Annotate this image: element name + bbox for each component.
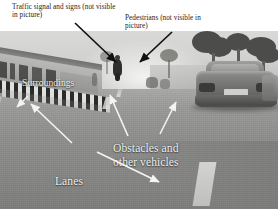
road-scene-photograph: Surroundings Obstacles and other vehicle… (0, 31, 278, 209)
caption-traffic-signal: Traffic signal and signs (not visible in… (12, 3, 117, 20)
motorcycle-wheel (115, 73, 120, 81)
overlay-label-obstacles: Obstacles and other vehicles (113, 141, 179, 169)
second-vehicle (262, 75, 278, 101)
caption-pedestrians: Pedestrians (not visible in picture) (125, 14, 220, 31)
car-taillight-left (199, 83, 215, 92)
overlay-label-surroundings: Surroundings (22, 78, 74, 90)
far-pedestrian (92, 73, 97, 86)
far-vehicle-2 (160, 79, 170, 89)
figure-root: Traffic signal and signs (not visible in… (0, 0, 278, 217)
overlay-label-lanes: Lanes (55, 176, 83, 188)
footpath-edge (0, 93, 150, 139)
far-vehicle-1 (146, 77, 158, 88)
